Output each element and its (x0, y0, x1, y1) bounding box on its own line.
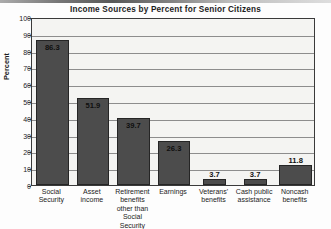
x-label-line: Veterans' (199, 188, 228, 195)
y-tick-mark-0 (28, 186, 31, 187)
x-label-line: income (81, 196, 104, 203)
bar-value-label: 3.7 (239, 170, 272, 179)
x-label-line: Social (42, 188, 61, 195)
x-label-line: Social Security (120, 213, 145, 228)
x-label-line: Earnings (159, 188, 187, 195)
x-label-line: Asset (83, 188, 101, 195)
chart-title: Income Sources by Percent for Senior Cit… (0, 5, 331, 14)
gridline-60 (32, 86, 314, 87)
bar-value-label: 3.7 (198, 170, 231, 179)
bar-value-label: 39.7 (118, 121, 148, 130)
gridline-70 (32, 69, 314, 70)
x-label-line: Noncash (281, 188, 309, 195)
bar: 51.9 (77, 98, 109, 185)
bar-value-label: 51.9 (78, 101, 108, 110)
bar-value-label: 86.3 (37, 43, 67, 52)
x-axis-label: Earnings (153, 188, 194, 196)
gridline-30 (32, 137, 314, 138)
x-label-line: Cash public (236, 188, 273, 195)
bar-value-label: 26.3 (159, 144, 189, 153)
x-axis-label: Retirementbenefitsother thanSocial Secur… (112, 188, 153, 229)
x-axis-label: Cash publicassistance (234, 188, 275, 205)
x-label-line: Security (39, 196, 64, 203)
scan-artifact-strip (0, 0, 331, 3)
x-label-line: benefits (282, 196, 307, 203)
gridline-90 (32, 36, 314, 37)
bar: 3.7 (203, 179, 226, 185)
bar: 26.3 (158, 141, 190, 185)
gridline-40 (32, 120, 314, 121)
bar-value-label: 11.8 (274, 156, 316, 165)
bar: 11.8 (279, 165, 311, 185)
bar: 86.3 (36, 40, 68, 185)
gridline-50 (32, 103, 314, 104)
x-label-line: benefits (201, 196, 226, 203)
y-axis-label: Percent (2, 37, 11, 97)
gridline-80 (32, 53, 314, 54)
x-axis-label: Veterans'benefits (193, 188, 234, 205)
bar-chart-figure: Income Sources by Percent for Senior Cit… (0, 0, 331, 229)
plot-area: 86.351.939.726.33.73.711.8 (31, 18, 315, 186)
x-axis-category-labels: SocialSecurityAssetincomeRetirementbenef… (31, 188, 315, 229)
bar: 39.7 (117, 118, 149, 185)
x-label-line: benefits (120, 196, 145, 203)
x-label-line: assistance (238, 196, 271, 203)
x-axis-label: Noncashbenefits (274, 188, 315, 205)
x-axis-label: SocialSecurity (31, 188, 72, 205)
x-label-line: Retirement (115, 188, 149, 195)
x-label-line: other than (117, 205, 149, 212)
x-axis-label: Assetincome (72, 188, 113, 205)
bar: 3.7 (244, 179, 267, 185)
